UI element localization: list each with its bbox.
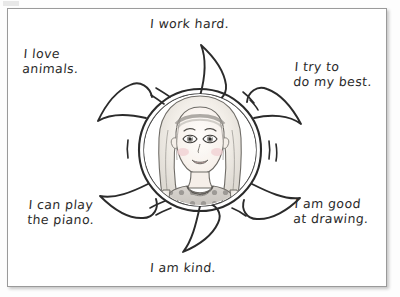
scan-artifact — [3, 1, 19, 6]
caption-top: I work hard. — [149, 17, 229, 32]
caption-bottom: I am kind. — [149, 261, 216, 276]
caption-upper-left: I love animals. — [22, 47, 81, 76]
caption-lower-right: I am good at drawing. — [293, 197, 371, 226]
caption-lower-left: I can play the piano. — [27, 198, 96, 227]
caption-upper-right: I try to do my best. — [293, 60, 374, 89]
worksheet-page: I work hard. I love animals. I try to do… — [0, 0, 400, 297]
